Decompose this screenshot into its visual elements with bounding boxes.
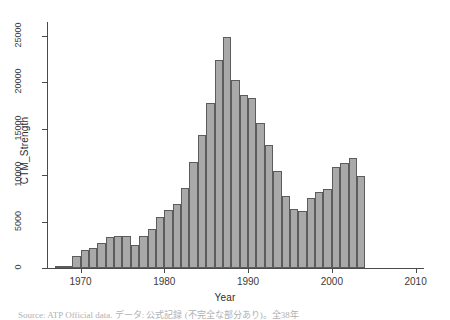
histogram-bar	[89, 248, 97, 268]
histogram-bar	[81, 250, 89, 268]
chart-screenshot: 0500010000150002000025000 19701980199020…	[0, 0, 450, 320]
histogram-bar	[206, 103, 214, 268]
histogram-bar	[131, 245, 139, 268]
histogram-bar	[223, 37, 231, 268]
histogram-bar	[173, 204, 181, 268]
histogram-bar	[307, 198, 315, 268]
histogram-bar	[181, 188, 189, 268]
y-axis-tick-label: 25000	[13, 15, 23, 55]
histogram-bar	[122, 236, 130, 268]
x-axis-tick-label: 2010	[396, 276, 436, 287]
x-axis-tick-label: 2000	[312, 276, 352, 287]
figure-caption: Source: ATP Official data. データ: 公式記録 (不完…	[18, 308, 432, 320]
y-axis-tick	[42, 82, 47, 83]
histogram-bar	[282, 196, 290, 268]
histogram-bar	[349, 158, 357, 268]
histogram-bar	[72, 256, 80, 268]
histogram-bar	[106, 237, 114, 268]
histogram-bar	[290, 209, 298, 268]
histogram-bar	[248, 98, 256, 268]
histogram-bar	[164, 210, 172, 268]
y-axis-tick	[42, 175, 47, 176]
histogram-bar	[156, 217, 164, 268]
histogram-bar	[240, 95, 248, 268]
histogram-bar	[148, 229, 156, 268]
x-axis-tick-label: 1990	[228, 276, 268, 287]
y-axis-tick	[42, 36, 47, 37]
histogram-bar	[323, 189, 331, 268]
histogram-bar	[256, 123, 264, 268]
histogram-bar	[273, 171, 281, 268]
histogram-bar	[189, 162, 197, 268]
histogram-bar	[114, 236, 122, 268]
histogram-bar	[231, 80, 239, 268]
histogram-bar	[332, 167, 340, 268]
x-axis-tick	[81, 268, 82, 273]
y-axis-tick	[42, 222, 47, 223]
histogram-bar	[139, 236, 147, 268]
x-axis-line	[47, 268, 424, 269]
x-axis-tick	[164, 268, 165, 273]
histogram-bar	[357, 176, 365, 268]
histogram-bar	[215, 60, 223, 268]
x-axis-tick	[248, 268, 249, 273]
histogram-bar	[198, 135, 206, 268]
histogram-bar	[315, 192, 323, 268]
y-axis-tick	[42, 268, 47, 269]
y-axis-title: CTM_Strength	[19, 91, 30, 211]
x-axis-title: Year	[0, 292, 450, 303]
y-axis-tick-label: 0	[13, 247, 23, 287]
histogram-plot-area: 0500010000150002000025000 19701980199020…	[0, 0, 450, 320]
histogram-bar	[97, 243, 105, 268]
histogram-bar	[265, 145, 273, 268]
x-axis-tick-label: 1970	[61, 276, 101, 287]
x-axis-tick	[416, 268, 417, 273]
x-axis-tick	[332, 268, 333, 273]
y-axis-tick	[42, 129, 47, 130]
histogram-bar	[298, 211, 306, 268]
x-axis-tick-label: 1980	[144, 276, 184, 287]
histogram-bar	[340, 163, 348, 268]
histogram-bars	[0, 0, 450, 320]
y-axis-line	[47, 22, 48, 268]
